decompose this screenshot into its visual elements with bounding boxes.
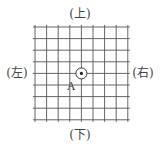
label-bottom: (下) [69,128,90,142]
label-right: (右) [132,66,153,80]
label-top: (上) [69,7,90,21]
label-left: (左) [6,66,27,80]
point-a-label: A [67,80,76,92]
marker-dot-icon [80,72,83,75]
grid-diagram: (上) (下) (左) (右) A [0,0,160,148]
